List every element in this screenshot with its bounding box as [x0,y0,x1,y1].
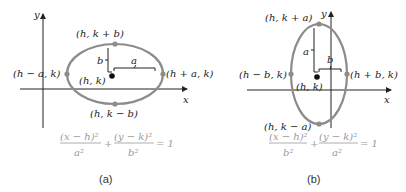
caption-b: (b) [307,173,320,185]
top-point-label-b: (h, k + a) [265,12,312,23]
vertex-top-a [112,41,117,46]
left-point-label-b: (h − b, k) [239,69,287,80]
right-point-label-a: (h + a, k) [166,68,213,79]
vertex-bottom-a [112,101,117,106]
vertex-left-b [288,71,293,76]
eq-rhs-b: = 1 [360,138,378,149]
eq-num1-b: (x − h)² [269,131,308,142]
eq-rhs-a: = 1 [156,138,174,149]
center-label-b: (h, k) [296,81,323,92]
center-label-a: (h, k) [79,75,106,86]
ellipse-diagram: y x b a (h, k + b) (h, k − b) (h − a, k)… [0,0,406,192]
eq-den2-b: a² [332,147,342,158]
eq-den2-a: b² [128,147,138,158]
eq-plus-b: + [310,138,318,149]
left-point-label-a: (h − a, k) [13,68,60,79]
center-point-a [109,73,115,79]
eq-num1-a: (x − h)² [60,131,99,142]
label-b-b: b [327,54,333,65]
eq-num2-a: (y − k)² [114,131,152,142]
x-axis-label-a: x [183,94,189,105]
caption-a: (a) [99,173,112,185]
vertex-left-a [64,71,69,76]
top-point-label-a: (h, k + b) [76,28,124,39]
brace-a-b [311,28,318,72]
brace-b-b [319,66,341,72]
vertex-bottom-b [316,121,321,126]
bottom-point-label-a: (h, k − b) [90,108,138,119]
label-b-a: b [97,55,103,66]
vertex-right-a [160,71,165,76]
figure-b: y x a b (h, k + a) (h, k − a) (h − b, k)… [239,8,398,185]
equation-b: (x − h)² b² + (y − k)² a² = 1 [269,131,378,158]
vertex-top-b [316,21,321,26]
x-axis-label-b: x [384,94,390,105]
ellipse-b [291,24,347,124]
ellipse-a [67,44,163,104]
right-point-label-b: (h + b, k) [350,69,398,80]
eq-den1-b: b² [283,147,293,158]
label-a-b: a [303,46,309,57]
eq-den1-a: a² [74,147,84,158]
brace-b-a [105,48,112,72]
y-axis-label-a: y [33,9,40,20]
center-point-b [314,74,320,80]
label-a-a: a [131,55,137,66]
y-axis-label-b: y [320,8,327,19]
eq-num2-b: (y − k)² [319,131,357,142]
vertex-right-b [344,71,349,76]
equation-a: (x − h)² a² + (y − k)² b² = 1 [60,131,174,158]
figure-a: y x b a (h, k + b) (h, k − b) (h − a, k)… [13,9,213,185]
eq-plus-a: + [104,138,112,149]
